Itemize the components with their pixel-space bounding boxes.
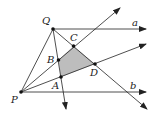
label-a: A — [51, 80, 59, 91]
point-b — [57, 58, 61, 62]
label-b: B — [46, 54, 54, 65]
label-line-b: b — [130, 80, 136, 91]
point-d — [93, 62, 97, 66]
point-c — [72, 44, 76, 48]
label-q: Q — [42, 15, 50, 26]
ray-pd — [21, 44, 146, 92]
point-a — [59, 75, 63, 79]
label-line-a: a — [132, 17, 138, 28]
label-d: D — [89, 67, 98, 78]
point-p — [19, 90, 23, 94]
label-c: C — [70, 32, 78, 43]
label-p: P — [10, 94, 18, 105]
point-q — [51, 27, 55, 31]
ray-pc — [21, 8, 120, 92]
geometry-diagram: Q C B D A P a b — [0, 0, 158, 118]
